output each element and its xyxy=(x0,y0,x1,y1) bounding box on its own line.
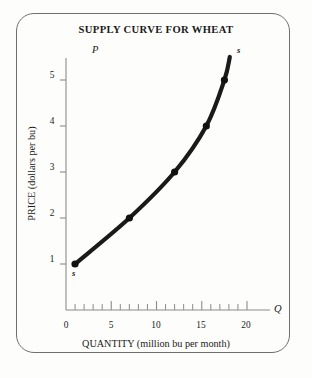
data-point-q7-p2 xyxy=(126,214,133,221)
y-axis-label: PRICE (dollars per bu) xyxy=(26,99,37,249)
chart-svg xyxy=(0,0,312,378)
supply-curve-line xyxy=(75,57,230,264)
data-point-markers xyxy=(71,76,228,267)
data-point-q175-p5 xyxy=(221,76,228,83)
plot-area: P Q 5 4 3 2 1 0 5 10 15 20 s s xyxy=(0,0,312,378)
x-axis-ticks xyxy=(75,301,247,310)
data-point-q12-p3 xyxy=(171,168,178,175)
x-axis-label: QUANTITY (million bu per month) xyxy=(0,338,312,349)
data-point-q1-p1 xyxy=(71,260,78,267)
y-axis-ticks xyxy=(60,80,66,264)
data-point-q155-p4 xyxy=(203,122,210,129)
figure-page: SUPPLY CURVE FOR WHEAT P Q 5 4 3 2 1 0 5… xyxy=(0,0,312,378)
